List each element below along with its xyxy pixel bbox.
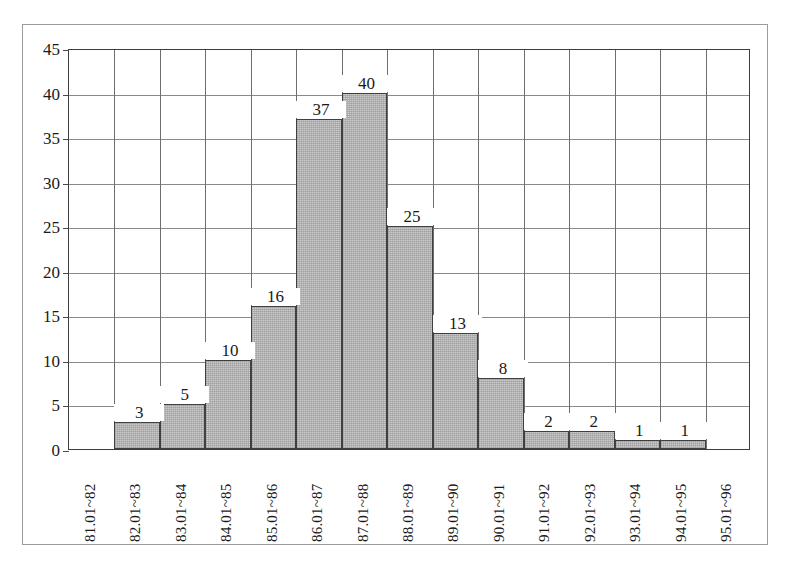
gridline-x-14: [706, 50, 707, 449]
histogram-bar: [114, 422, 159, 449]
x-tick-label: 81.01~82: [83, 456, 98, 542]
histogram-bar: [524, 431, 569, 449]
y-tick-mark: [63, 139, 69, 140]
histogram-bar: [433, 333, 478, 449]
x-tick-label: 89.01~90: [446, 456, 461, 542]
histogram-figure: 051015202530354045 81.01~8282.01~8383.01…: [0, 0, 786, 573]
x-tick-label: 88.01~89: [401, 456, 416, 542]
plot-area: 3510163740251382211: [68, 49, 750, 450]
x-tick-label: 93.01~94: [628, 456, 643, 542]
y-tick-label: 0: [14, 442, 60, 459]
histogram-bar: [387, 226, 432, 449]
bar-value-label: 2: [524, 413, 573, 430]
histogram-bar: [160, 404, 205, 449]
x-tick-label: 94.01~95: [674, 456, 689, 542]
y-tick-label: 20: [14, 264, 60, 281]
histogram-bar: [251, 306, 296, 449]
bar-value-label: 25: [387, 208, 436, 225]
gridline-x-1: [114, 50, 115, 449]
x-tick-label: 83.01~84: [174, 456, 189, 542]
gridline-y-30: [69, 184, 749, 185]
histogram-bar: [296, 119, 341, 449]
bar-value-label: 5: [160, 386, 209, 403]
y-tick-mark: [63, 95, 69, 96]
histogram-bar: [478, 378, 523, 449]
histogram-bar: [205, 360, 250, 449]
bar-value-label: 16: [251, 288, 300, 305]
y-tick-label: 35: [14, 130, 60, 147]
gridline-x-11: [569, 50, 570, 449]
gridline-x-13: [660, 50, 661, 449]
y-tick-label: 40: [14, 86, 60, 103]
x-tick-label: 82.01~83: [128, 456, 143, 542]
x-tick-label: 84.01~85: [219, 456, 234, 542]
x-tick-label: 90.01~91: [492, 456, 507, 542]
y-tick-label: 45: [14, 41, 60, 58]
gridline-x-10: [524, 50, 525, 449]
histogram-bar: [569, 431, 614, 449]
bar-value-label: 10: [205, 342, 254, 359]
histogram-bar: [342, 93, 387, 449]
histogram-bar: [615, 440, 660, 449]
gridline-y-35: [69, 139, 749, 140]
x-tick-label: 91.01~92: [537, 456, 552, 542]
bar-value-label: 1: [660, 422, 709, 439]
y-tick-mark: [63, 362, 69, 363]
bar-value-label: 40: [342, 75, 391, 92]
y-tick-label: 30: [14, 175, 60, 192]
bar-value-label: 8: [478, 360, 527, 377]
y-tick-mark: [63, 50, 69, 51]
x-tick-label: 85.01~86: [265, 456, 280, 542]
y-tick-label: 15: [14, 308, 60, 325]
y-tick-mark: [63, 406, 69, 407]
y-tick-mark: [63, 273, 69, 274]
y-tick-mark: [63, 184, 69, 185]
bar-value-label: 2: [569, 413, 618, 430]
x-tick-label: 95.01~96: [719, 456, 734, 542]
x-tick-label: 92.01~93: [583, 456, 598, 542]
bar-value-label: 37: [296, 101, 345, 118]
x-tick-label: 87.01~88: [356, 456, 371, 542]
y-tick-mark: [63, 228, 69, 229]
gridline-y-40: [69, 95, 749, 96]
bar-value-label: 13: [433, 315, 482, 332]
gridline-x-12: [615, 50, 616, 449]
bar-value-label: 1: [615, 422, 664, 439]
y-tick-mark: [63, 451, 69, 452]
bar-value-label: 3: [114, 404, 163, 421]
x-tick-label: 86.01~87: [310, 456, 325, 542]
y-tick-mark: [63, 317, 69, 318]
y-tick-label: 5: [14, 397, 60, 414]
y-tick-label: 25: [14, 219, 60, 236]
y-tick-label: 10: [14, 353, 60, 370]
histogram-bar: [660, 440, 705, 449]
